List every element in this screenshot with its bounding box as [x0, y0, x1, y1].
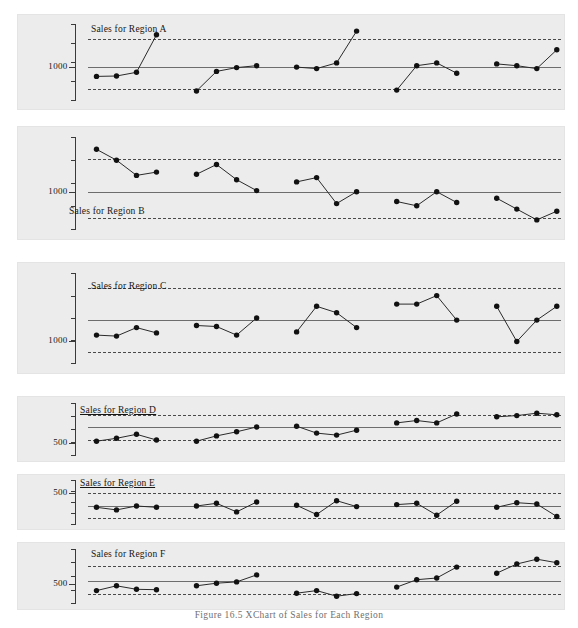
data-point-marker [194, 583, 199, 588]
data-point-marker [394, 87, 399, 92]
series-connector [497, 503, 557, 517]
data-point-marker [134, 503, 139, 508]
series-connector [197, 502, 257, 512]
data-point-marker [494, 304, 499, 309]
data-point-marker [534, 501, 539, 506]
data-point-marker [234, 509, 239, 514]
data-point-marker [254, 572, 259, 577]
data-point-marker [214, 433, 219, 438]
series-connector [397, 296, 457, 321]
data-point-marker [234, 579, 239, 584]
data-point-marker [94, 588, 99, 593]
data-point-marker [294, 329, 299, 334]
data-point-marker [494, 61, 499, 66]
data-point-marker [534, 411, 539, 416]
series-connector [97, 506, 157, 510]
series-connector [197, 575, 257, 586]
data-point-marker [554, 304, 559, 309]
data-point-marker [314, 175, 319, 180]
data-point-marker [534, 317, 539, 322]
data-point-marker [554, 209, 559, 214]
series-connector [297, 31, 357, 69]
panel-title-region-d: Sales for Region D [80, 405, 156, 415]
series-layer [17, 262, 565, 374]
data-point-marker [94, 332, 99, 337]
data-point-marker [134, 587, 139, 592]
data-point-marker [334, 498, 339, 503]
series-connector [397, 567, 457, 587]
data-point-marker [454, 71, 459, 76]
series-connector [297, 178, 357, 204]
data-point-marker [114, 507, 119, 512]
data-point-marker [314, 66, 319, 71]
data-point-marker [214, 581, 219, 586]
data-point-marker [134, 70, 139, 75]
series-connector [297, 501, 357, 515]
data-point-marker [154, 169, 159, 174]
series-connector [497, 50, 557, 69]
data-point-marker [514, 206, 519, 211]
data-point-marker [154, 330, 159, 335]
series-connector [97, 149, 157, 175]
data-point-marker [414, 577, 419, 582]
data-point-marker [414, 63, 419, 68]
data-point-marker [334, 594, 339, 599]
series-connector [397, 63, 457, 90]
data-point-marker [414, 203, 419, 208]
panel-title-region-b: Sales for Region B [69, 206, 145, 216]
data-point-marker [194, 172, 199, 177]
series-connector [297, 306, 357, 332]
data-point-marker [294, 179, 299, 184]
panel-title-region-f: Sales for Region F [91, 549, 166, 559]
data-point-marker [434, 293, 439, 298]
data-point-marker [354, 189, 359, 194]
data-point-marker [434, 189, 439, 194]
data-point-marker [294, 503, 299, 508]
data-point-marker [534, 557, 539, 562]
data-point-marker [334, 60, 339, 65]
data-point-marker [394, 584, 399, 589]
data-point-marker [114, 158, 119, 163]
data-point-marker [294, 64, 299, 69]
data-point-marker [134, 432, 139, 437]
data-point-marker [394, 502, 399, 507]
data-point-marker [234, 65, 239, 70]
data-point-marker [414, 301, 419, 306]
data-point-marker [494, 505, 499, 510]
data-point-marker [214, 69, 219, 74]
data-point-marker [114, 73, 119, 78]
data-point-marker [434, 60, 439, 65]
data-point-marker [114, 333, 119, 338]
data-point-marker [194, 503, 199, 508]
data-point-marker [254, 63, 259, 68]
data-point-marker [534, 66, 539, 71]
series-connector [197, 318, 257, 335]
data-point-marker [454, 411, 459, 416]
data-point-marker [494, 571, 499, 576]
series-connector [197, 427, 257, 441]
data-point-marker [114, 583, 119, 588]
chart-panel-region-a: 1000Sales for Region A [17, 14, 565, 110]
figure-caption: Figure 16.5 XChart of Sales for Each Reg… [0, 610, 578, 620]
series-connector [397, 501, 457, 515]
data-point-marker [334, 201, 339, 206]
data-point-marker [314, 588, 319, 593]
series-connector [197, 165, 257, 191]
data-point-marker [394, 199, 399, 204]
data-point-marker [314, 512, 319, 517]
panel-title-region-a: Sales for Region A [91, 24, 167, 34]
data-point-marker [194, 323, 199, 328]
data-point-marker [554, 47, 559, 52]
series-connector [497, 198, 557, 220]
data-point-marker [134, 325, 139, 330]
series-connector [397, 414, 457, 423]
data-point-marker [494, 196, 499, 201]
series-connector [97, 35, 157, 77]
chart-panel-region-f: 500Sales for Region F [17, 542, 565, 610]
data-point-marker [354, 428, 359, 433]
data-point-marker [494, 414, 499, 419]
data-point-marker [194, 439, 199, 444]
data-point-marker [94, 74, 99, 79]
data-point-marker [354, 28, 359, 33]
data-point-marker [514, 413, 519, 418]
